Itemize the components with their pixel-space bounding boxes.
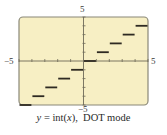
x-min-label: −5: [4, 57, 14, 66]
y-max-label: 5: [80, 5, 85, 14]
figure-caption: y = int(x), DOT mode: [0, 113, 167, 124]
calculator-graph-figure: 5 −5 5 −5 y = int(x), DOT mode: [0, 0, 167, 135]
caption-mode: DOT mode: [83, 112, 130, 123]
x-max-label: 5: [151, 57, 156, 66]
caption-function: = int(: [41, 112, 67, 123]
graph-screen: [0, 0, 167, 115]
caption-close: ),: [72, 112, 78, 123]
